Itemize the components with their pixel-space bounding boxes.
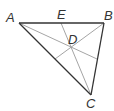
side-ac bbox=[19, 23, 91, 95]
side-bc bbox=[91, 23, 104, 95]
cevian-b bbox=[55, 23, 104, 59]
triangle-diagram: A E B D C bbox=[0, 0, 114, 111]
label-d: D bbox=[68, 32, 77, 47]
label-a: A bbox=[5, 10, 15, 25]
label-e: E bbox=[57, 7, 66, 22]
label-c: C bbox=[86, 96, 96, 111]
label-b: B bbox=[104, 8, 113, 23]
cevian-a bbox=[19, 23, 97, 59]
